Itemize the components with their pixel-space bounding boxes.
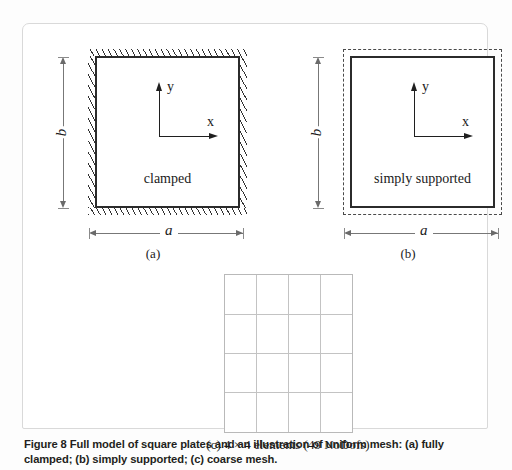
y-axis-label: y bbox=[422, 79, 429, 95]
mesh-grid-line-horizontal bbox=[225, 314, 352, 315]
dimension-b-label: b bbox=[307, 127, 326, 139]
x-axis-arrow-icon bbox=[464, 133, 473, 139]
x-axis-line bbox=[414, 136, 468, 137]
dimension-b-arrow-bottom-icon bbox=[60, 201, 66, 208]
y-axis-arrow-icon bbox=[411, 82, 417, 91]
x-axis-line bbox=[159, 136, 213, 137]
dimension-b-arrow-top-icon bbox=[60, 57, 66, 64]
dimension-b-label: b bbox=[52, 127, 71, 139]
dimension-b-arrow-top-icon bbox=[315, 57, 321, 64]
mesh-grid-line-horizontal bbox=[225, 392, 352, 393]
dimension-b-tick-top bbox=[58, 57, 69, 58]
y-axis-arrow-icon bbox=[156, 82, 162, 91]
panel-a-sub-label: (a) bbox=[128, 246, 178, 262]
uniform-mesh-grid bbox=[224, 274, 353, 433]
y-axis-label: y bbox=[167, 79, 174, 95]
dimension-b-tick-top bbox=[313, 57, 324, 58]
dimension-a-arrow-left-icon bbox=[89, 230, 96, 236]
clamped-edge-hatch-right bbox=[239, 56, 247, 208]
x-axis-label: x bbox=[207, 114, 214, 130]
clamped-plate: y x clamped bbox=[95, 56, 240, 208]
dimension-a-tick-left bbox=[89, 228, 90, 239]
dimension-a-tick-right bbox=[243, 228, 244, 239]
dimension-b-arrow-bottom-icon bbox=[315, 201, 321, 208]
mesh-grid-line-horizontal bbox=[225, 353, 352, 354]
simply-supported-plate: y x simply supported bbox=[350, 56, 495, 208]
dimension-b-tick-bottom bbox=[58, 208, 69, 209]
dimension-a-label: a bbox=[415, 222, 433, 239]
y-axis-line bbox=[159, 89, 160, 137]
figure-card: y x clamped b a (a) bbox=[22, 23, 488, 429]
panel-b-sub-label: (b) bbox=[383, 246, 433, 262]
dimension-a-arrow-left-icon bbox=[344, 230, 351, 236]
dimension-b-tick-bottom bbox=[313, 208, 324, 209]
simply-supported-boundary-label: simply supported bbox=[352, 171, 493, 187]
dimension-a-label: a bbox=[160, 222, 178, 239]
dimension-a-arrow-right-icon bbox=[491, 230, 498, 236]
x-axis-label: x bbox=[462, 114, 469, 130]
figure-caption: Figure 8 Full model of square plates and… bbox=[24, 437, 486, 467]
dimension-a-arrow-right-icon bbox=[236, 230, 243, 236]
y-axis-line bbox=[414, 89, 415, 137]
clamped-edge-hatch-bottom bbox=[88, 207, 247, 215]
dimension-a-tick-right bbox=[498, 228, 499, 239]
dimension-a-tick-left bbox=[344, 228, 345, 239]
x-axis-arrow-icon bbox=[209, 133, 218, 139]
clamped-boundary-label: clamped bbox=[97, 171, 238, 187]
